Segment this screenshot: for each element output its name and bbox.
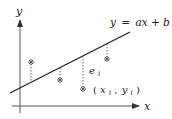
regression-equation: y = ax + b xyxy=(109,16,170,28)
equation-equals: = xyxy=(121,16,130,28)
equation-lhs: y xyxy=(109,16,117,28)
regression-diagram: y x y = ax + b e i xyxy=(0,0,172,119)
y-axis-label: y xyxy=(15,5,23,18)
point-label-y: y xyxy=(121,84,128,95)
point-label-close: ) xyxy=(136,84,140,95)
x-axis-label: x xyxy=(144,100,151,113)
data-point-3 xyxy=(81,87,85,91)
data-point-2 xyxy=(58,78,62,82)
residual-label-sub: i xyxy=(98,70,100,78)
point-label: ( x i , y i ) xyxy=(93,84,140,97)
point-label-x: x xyxy=(100,84,106,95)
point-label-comma: , xyxy=(114,84,117,95)
residual-label: e i xyxy=(89,65,100,78)
data-point-1 xyxy=(29,60,33,64)
point-label-y-sub: i xyxy=(131,89,133,97)
point-label-x-sub: i xyxy=(109,89,111,97)
data-point-4 xyxy=(105,57,109,61)
regression-line xyxy=(10,32,130,93)
point-label-open: ( xyxy=(93,84,97,95)
residual-label-base: e xyxy=(89,65,95,76)
equation-rhs: ax + b xyxy=(135,16,170,28)
